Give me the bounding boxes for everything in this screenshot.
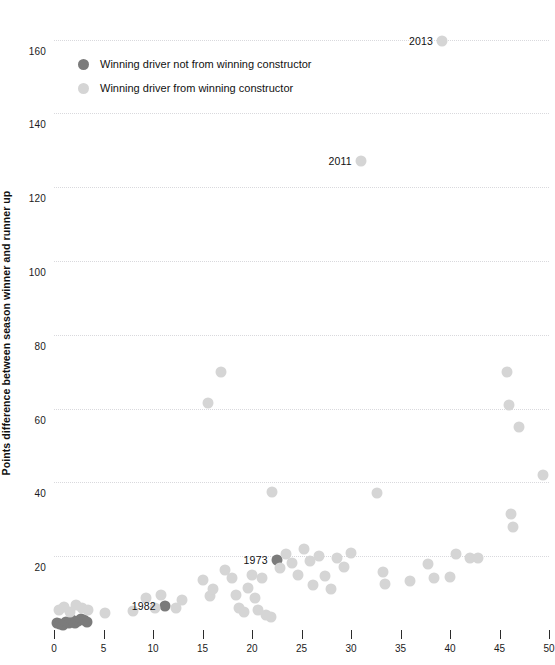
x-tick-mark: [54, 630, 55, 639]
data-point[interactable]: [437, 36, 448, 47]
data-point[interactable]: [379, 578, 390, 589]
data-point[interactable]: [377, 566, 388, 577]
data-point[interactable]: [346, 547, 357, 558]
data-point[interactable]: [472, 553, 483, 564]
data-point[interactable]: [203, 398, 214, 409]
point-annotation-2011: 2011: [329, 155, 352, 167]
plot-area: 204060801001201401602013201119731982: [54, 10, 549, 630]
data-point[interactable]: [308, 579, 319, 590]
data-point[interactable]: [265, 611, 276, 622]
x-tick-mark: [401, 630, 402, 639]
x-tick-mark: [500, 630, 501, 639]
y-tick-label: 20: [0, 562, 46, 573]
data-point[interactable]: [508, 522, 519, 533]
data-point[interactable]: [445, 571, 456, 582]
legend-swatch-icon-light: [78, 83, 89, 94]
data-point[interactable]: [243, 582, 254, 593]
data-point[interactable]: [371, 488, 382, 499]
x-tick-mark: [450, 630, 451, 639]
point-annotation-2013: 2013: [409, 35, 433, 47]
point-annotation-1982: 1982: [132, 600, 156, 612]
x-tick-label: 10: [147, 643, 158, 654]
data-point[interactable]: [231, 589, 242, 600]
data-point[interactable]: [208, 584, 219, 595]
legend-swatch-icon-dark: [78, 59, 89, 70]
legend-item-not-from-winning-constructor[interactable]: Winning driver not from winning construc…: [78, 52, 378, 76]
x-tick-mark: [302, 630, 303, 639]
y-axis-title-text: Points difference between season winner …: [0, 190, 12, 475]
data-point[interactable]: [450, 548, 461, 559]
data-point[interactable]: [538, 470, 549, 481]
data-point[interactable]: [100, 608, 111, 619]
x-tick-label: 40: [444, 643, 455, 654]
data-point[interactable]: [227, 572, 238, 583]
x-tick-mark: [104, 630, 105, 639]
legend-label: Winning driver from winning constructor: [100, 82, 293, 94]
x-tick-label: 0: [51, 643, 57, 654]
data-point[interactable]: [429, 572, 440, 583]
data-point[interactable]: [314, 551, 325, 562]
point-annotation-1973: 1973: [244, 554, 268, 566]
x-tick-label: 25: [296, 643, 307, 654]
x-axis: 05101520253035404550: [54, 630, 549, 665]
data-point[interactable]: [299, 543, 310, 554]
y-tick-label: 100: [0, 267, 46, 278]
data-point[interactable]: [197, 574, 208, 585]
gridline: [54, 40, 549, 41]
data-point[interactable]: [292, 569, 303, 580]
data-point[interactable]: [239, 607, 250, 618]
data-point[interactable]: [81, 616, 92, 627]
x-tick-label: 20: [246, 643, 257, 654]
y-tick-label: 140: [0, 119, 46, 130]
data-point[interactable]: [502, 366, 513, 377]
data-point[interactable]: [176, 594, 187, 605]
y-tick-label: 60: [0, 415, 46, 426]
chart-legend: Winning driver not from winning construc…: [78, 52, 378, 100]
x-tick-mark: [549, 630, 550, 639]
data-point[interactable]: [339, 561, 350, 572]
gridline: [54, 335, 549, 336]
data-point[interactable]: [256, 573, 267, 584]
x-tick-label: 15: [197, 643, 208, 654]
gridline: [54, 187, 549, 188]
x-tick-label: 35: [395, 643, 406, 654]
data-point[interactable]: [266, 486, 277, 497]
x-tick-mark: [203, 630, 204, 639]
y-tick-label: 80: [0, 341, 46, 352]
data-point[interactable]: [286, 557, 297, 568]
data-point[interactable]: [355, 156, 366, 167]
data-point[interactable]: [216, 366, 227, 377]
gridline: [54, 113, 549, 114]
data-point[interactable]: [82, 605, 93, 616]
x-tick-mark: [153, 630, 154, 639]
x-tick-mark: [252, 630, 253, 639]
data-point[interactable]: [320, 571, 331, 582]
y-tick-label: 160: [0, 46, 46, 57]
data-point[interactable]: [159, 601, 170, 612]
x-tick-label: 50: [543, 643, 554, 654]
x-tick-label: 30: [345, 643, 356, 654]
data-point[interactable]: [504, 399, 515, 410]
data-point[interactable]: [506, 508, 517, 519]
legend-item-from-winning-constructor[interactable]: Winning driver from winning constructor: [78, 76, 378, 100]
data-point[interactable]: [405, 576, 416, 587]
x-tick-mark: [351, 630, 352, 639]
data-point[interactable]: [326, 584, 337, 595]
data-point[interactable]: [514, 422, 525, 433]
gridline: [54, 409, 549, 410]
data-point[interactable]: [423, 558, 434, 569]
legend-label: Winning driver not from winning construc…: [100, 58, 312, 70]
gridline: [54, 482, 549, 483]
gridline: [54, 261, 549, 262]
data-point[interactable]: [249, 593, 260, 604]
x-tick-label: 5: [101, 643, 107, 654]
x-tick-label: 45: [494, 643, 505, 654]
data-point[interactable]: [155, 590, 166, 601]
data-point[interactable]: [274, 563, 285, 574]
y-tick-label: 40: [0, 488, 46, 499]
y-tick-label: 120: [0, 193, 46, 204]
